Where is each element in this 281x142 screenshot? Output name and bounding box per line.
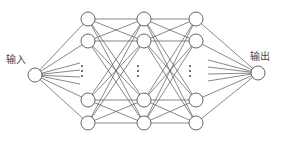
edge xyxy=(196,73,258,100)
edge xyxy=(35,19,88,75)
ellipsis-dot xyxy=(81,70,83,72)
node-hidden-2 xyxy=(137,34,151,48)
node-hidden-2 xyxy=(137,93,151,107)
node-hidden-3 xyxy=(189,93,203,107)
node-hidden-2 xyxy=(137,116,151,130)
edge xyxy=(208,67,258,73)
neural-network-diagram: 输入 输出 xyxy=(0,0,281,142)
edge xyxy=(35,75,88,123)
node-hidden-1 xyxy=(81,116,95,130)
edge xyxy=(196,73,258,123)
node-hidden-1 xyxy=(81,34,95,48)
input-label: 输入 xyxy=(6,53,26,65)
ellipsis-dot xyxy=(81,75,83,77)
ellipsis-dot xyxy=(137,70,139,72)
node-input xyxy=(28,68,42,82)
node-hidden-1 xyxy=(81,93,95,107)
output-label: 输出 xyxy=(250,50,270,62)
ellipsis-dot xyxy=(189,70,191,72)
node-hidden-3 xyxy=(189,116,203,130)
ellipsis-dot xyxy=(137,75,139,77)
edge xyxy=(35,41,88,75)
edge xyxy=(35,75,88,100)
node-hidden-3 xyxy=(189,12,203,26)
node-hidden-3 xyxy=(189,34,203,48)
node-hidden-2 xyxy=(137,12,151,26)
fan-lines xyxy=(35,60,258,84)
ellipsis-dot xyxy=(81,65,83,67)
ellipsis-dot xyxy=(137,65,139,67)
node-hidden-1 xyxy=(81,12,95,26)
ellipsis-dot xyxy=(189,65,191,67)
ellipsis-dot xyxy=(189,75,191,77)
node-output xyxy=(251,66,265,80)
nodes xyxy=(28,12,265,130)
